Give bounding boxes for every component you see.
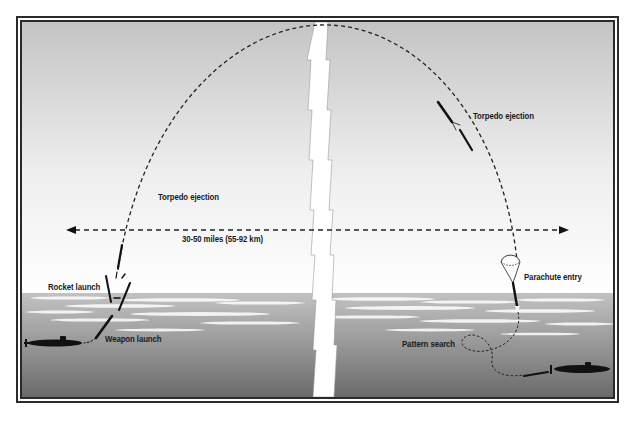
label-torpedo-ejection-right: Torpedo ejection <box>473 111 534 121</box>
label-parachute-entry: Parachute entry <box>524 272 582 282</box>
diagram-scene <box>0 0 635 421</box>
label-rocket-launch: Rocket launch <box>48 282 100 292</box>
label-torpedo-ejection-left: Torpedo ejection <box>158 192 219 202</box>
label-pattern-search: Pattern search <box>402 339 455 349</box>
label-weapon-launch: Weapon launch <box>105 334 161 344</box>
label-range: 30-50 miles (55-92 km) <box>182 234 263 244</box>
